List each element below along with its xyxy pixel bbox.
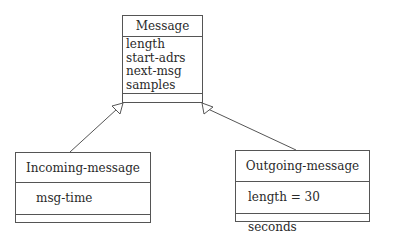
class-operations: [16, 215, 150, 222]
class-operations: [123, 94, 202, 102]
generalization-arrow-outgoing: [202, 103, 296, 150]
hollow-triangle-arrowhead-icon: [202, 103, 213, 114]
attribute: samples: [126, 79, 202, 93]
class-name: Incoming-message: [16, 153, 150, 183]
generalization-arrow-incoming: [70, 103, 123, 152]
class-box-message: Message length start-adrs next-msg sampl…: [122, 15, 203, 103]
class-box-incoming-message: Incoming-message msg-time: [15, 152, 151, 223]
uml-class-diagram: Message length start-adrs next-msg sampl…: [0, 0, 393, 238]
class-name: Outgoing-message: [236, 151, 369, 182]
class-attributes: length start-adrs next-msg samples: [123, 37, 202, 94]
class-attributes: msg-time: [16, 183, 150, 215]
class-attributes: length = 30 seconds: [236, 182, 369, 214]
attribute: next-msg: [126, 65, 202, 79]
attribute: length = 30 seconds: [248, 182, 369, 238]
attribute: msg-time: [36, 183, 150, 213]
attribute: start-adrs: [126, 52, 202, 66]
class-box-outgoing-message: Outgoing-message length = 30 seconds: [235, 150, 370, 222]
attribute: length: [126, 38, 202, 52]
class-name: Message: [123, 16, 202, 37]
